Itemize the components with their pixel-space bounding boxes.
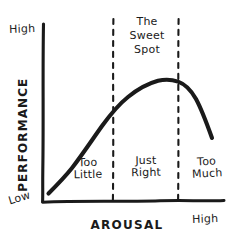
x-axis-line bbox=[43, 200, 224, 202]
chart-canvas bbox=[0, 0, 234, 240]
region-label-too-much: Too Much bbox=[183, 155, 230, 182]
region-label-too-little: Too Little bbox=[66, 157, 110, 182]
sweet-spot-annotation: The Sweet Spot bbox=[118, 15, 176, 56]
region-divider-right bbox=[178, 19, 179, 200]
x-axis-high-label: High bbox=[192, 213, 219, 226]
y-axis-line bbox=[43, 24, 44, 202]
x-axis-title: AROUSAL bbox=[72, 219, 182, 232]
y-axis-high-label: High bbox=[9, 23, 36, 36]
arousal-performance-chart: High Low High PERFORMANCE AROUSAL The Sw… bbox=[0, 0, 234, 240]
region-label-just-right: Just Right bbox=[121, 155, 171, 180]
y-axis-title: PERFORMANCE bbox=[17, 75, 30, 195]
